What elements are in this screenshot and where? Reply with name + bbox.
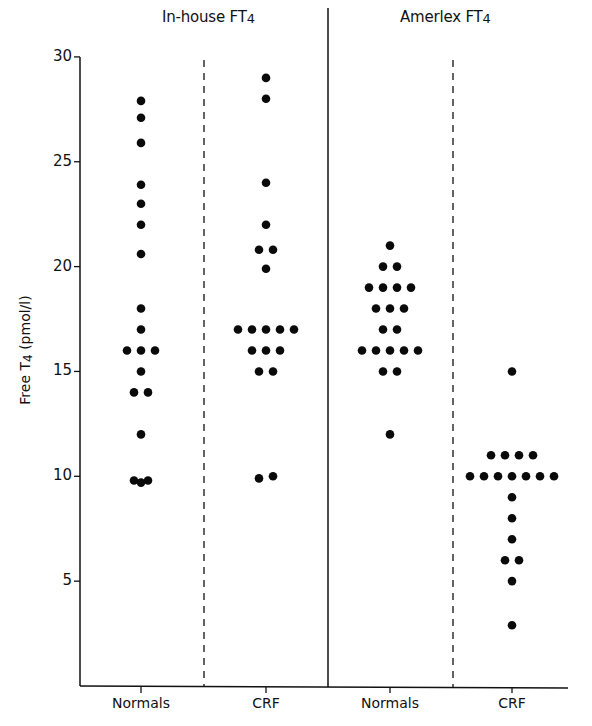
x-tick-label: CRF — [252, 695, 280, 711]
data-point — [494, 472, 503, 481]
data-point — [508, 472, 517, 481]
data-point — [234, 325, 243, 334]
data-point — [379, 262, 388, 271]
data-point — [358, 346, 367, 355]
data-point — [137, 304, 146, 313]
data-point — [262, 264, 271, 273]
data-point — [501, 556, 510, 565]
data-point — [386, 241, 395, 250]
y-axis-label-text: Free T — [17, 362, 33, 405]
panel-title-subscript: 4 — [483, 11, 491, 26]
y-tick-label: 15 — [32, 361, 72, 379]
panel-title-amerlex: Amerlex FT4 — [400, 8, 491, 26]
data-point — [130, 388, 139, 397]
data-point — [151, 346, 160, 355]
data-point — [137, 113, 146, 122]
data-point — [501, 451, 510, 460]
data-point — [255, 474, 264, 483]
data-point — [400, 304, 409, 313]
data-point — [414, 346, 423, 355]
data-point — [276, 325, 285, 334]
data-point — [508, 514, 517, 523]
data-point — [480, 472, 489, 481]
data-point — [137, 181, 146, 190]
data-point — [248, 325, 257, 334]
data-point — [522, 472, 531, 481]
y-axis-label: Free T4 (pmol/l) — [17, 295, 33, 404]
data-point — [248, 346, 257, 355]
panel-title-text: Amerlex FT — [400, 8, 483, 26]
data-point — [372, 304, 381, 313]
data-point — [365, 283, 374, 292]
panel-title-text: In-house FT — [162, 8, 247, 26]
data-point — [262, 95, 271, 104]
data-point — [255, 367, 264, 376]
x-tick-label: Normals — [361, 695, 419, 711]
y-tick-label: 25 — [32, 152, 72, 170]
y-tick-label: 10 — [32, 466, 72, 484]
data-point — [137, 325, 146, 334]
data-point — [487, 451, 496, 460]
x-axis-line — [80, 686, 568, 688]
x-tick-label: CRF — [498, 695, 526, 711]
data-point — [262, 325, 271, 334]
data-point — [393, 325, 402, 334]
y-tick-label: 30 — [32, 47, 72, 65]
data-point — [515, 556, 524, 565]
data-point — [393, 283, 402, 292]
data-point — [276, 346, 285, 355]
y-axis-label-unit: (pmol/l) — [17, 295, 33, 354]
data-point — [393, 262, 402, 271]
data-point — [466, 472, 475, 481]
panel-title-subscript: 4 — [247, 11, 255, 26]
panel-title-inhouse: In-house FT4 — [162, 8, 255, 26]
data-point — [379, 283, 388, 292]
data-point — [515, 451, 524, 460]
data-point — [508, 367, 517, 376]
data-point — [508, 535, 517, 544]
data-point — [137, 367, 146, 376]
y-ticks — [74, 57, 80, 581]
data-point — [379, 367, 388, 376]
x-tick-label: Normals — [112, 695, 170, 711]
y-tick-label: 20 — [32, 257, 72, 275]
data-point — [137, 346, 146, 355]
data-point — [379, 325, 388, 334]
data-point — [386, 346, 395, 355]
data-point — [262, 220, 271, 229]
data-point — [137, 97, 146, 106]
data-point — [372, 346, 381, 355]
data-point — [262, 74, 271, 83]
data-point — [137, 220, 146, 229]
data-point — [137, 199, 146, 208]
data-point — [508, 493, 517, 502]
data-point — [550, 472, 559, 481]
data-points — [123, 74, 559, 630]
data-point — [137, 430, 146, 439]
data-point — [508, 621, 517, 630]
data-point — [123, 346, 132, 355]
data-point — [262, 178, 271, 187]
data-point — [393, 367, 402, 376]
data-point — [386, 304, 395, 313]
data-point — [262, 346, 271, 355]
data-point — [269, 246, 278, 255]
data-point — [536, 472, 545, 481]
data-point — [137, 139, 146, 148]
data-point — [269, 367, 278, 376]
data-point — [386, 430, 395, 439]
data-point — [407, 283, 416, 292]
dot-plot-canvas — [0, 0, 592, 726]
data-point — [290, 325, 299, 334]
data-point — [508, 577, 517, 586]
data-point — [137, 250, 146, 259]
data-point — [529, 451, 538, 460]
data-point — [269, 472, 278, 481]
data-point — [400, 346, 409, 355]
data-point — [137, 478, 146, 487]
data-point — [255, 246, 264, 255]
y-tick-label: 5 — [32, 571, 72, 589]
data-point — [144, 388, 153, 397]
